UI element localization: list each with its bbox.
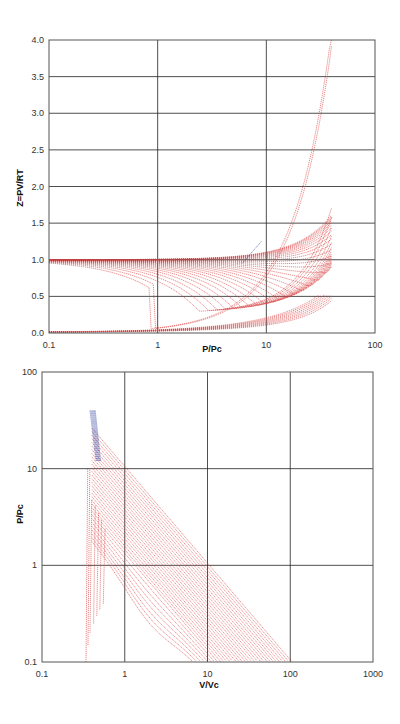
liquid-branch-line (49, 301, 332, 333)
isotherm-line (49, 236, 332, 309)
y-axis-title: P/Pc (15, 504, 25, 524)
liquid-line (90, 500, 92, 633)
y-tick: 3.5 (31, 72, 44, 82)
isotherm-line (49, 220, 332, 259)
liquid-line (103, 529, 105, 604)
pressure-volume-chart: 0.1 1 10 100 0.1 1 10 100 1000 V/Vc P/Pc (0, 362, 400, 724)
isotherm-line (92, 490, 239, 661)
isotherm-line (92, 530, 204, 661)
isotherm-line (92, 475, 251, 661)
liquid-branch-line (49, 295, 325, 332)
liquid-line (94, 505, 96, 623)
y-tick: 4.0 (31, 35, 44, 45)
liquid-line (100, 519, 102, 609)
y-tick: 0.0 (31, 328, 44, 338)
x-tick: 1000 (363, 669, 383, 679)
isotherm-line (49, 227, 332, 310)
isotherm-line (49, 228, 332, 260)
saturation-line (93, 411, 99, 462)
y-tick: 0.1 (24, 657, 37, 667)
isotherm-line (92, 453, 269, 660)
isotherm-line (92, 439, 282, 661)
x-tick: 1 (122, 669, 127, 679)
x-tick: 100 (283, 669, 298, 679)
y-tick: 0.5 (31, 291, 44, 301)
x-axis-title: V/Vc (199, 680, 219, 690)
liquid-line (97, 512, 99, 616)
compressibility-chart-svg: 0.0 0.5 1.0 1.5 2.0 2.5 3.0 3.5 4.0 0.1 … (0, 0, 400, 362)
isotherm-line (49, 254, 332, 306)
x-axis-title: P/Pc (202, 344, 222, 354)
x-tick: 0.1 (43, 340, 56, 350)
liquid-branch-line (49, 295, 327, 332)
isotherm-line (92, 493, 236, 661)
y-tick: 2.0 (31, 182, 44, 192)
isotherm-line (92, 511, 221, 662)
isotherm-line (92, 519, 214, 661)
compressibility-chart: 0.0 0.5 1.0 1.5 2.0 2.5 3.0 3.5 4.0 0.1 … (0, 0, 400, 362)
isotherm-line (92, 504, 226, 661)
x-tick: 10 (261, 340, 271, 350)
isotherm-line (92, 515, 217, 662)
x-tick: 100 (367, 340, 382, 350)
isotherm-line (92, 482, 245, 660)
isotherm-line (49, 239, 332, 260)
isotherm-line (92, 522, 211, 661)
isotherm-line (92, 508, 224, 662)
liquid-branch-line (49, 296, 332, 332)
isotherm-curves (86, 411, 292, 663)
y-axis-ticks: 0.0 0.5 1.0 1.5 2.0 2.5 3.0 3.5 4.0 (31, 35, 44, 338)
isotherm-line (92, 500, 230, 661)
isotherm-line (49, 219, 332, 260)
isotherm-curves (49, 40, 332, 332)
isotherm-line (92, 464, 261, 661)
y-tick: 100 (22, 367, 37, 377)
y-tick: 1.5 (31, 218, 44, 228)
chart-grid (49, 40, 375, 333)
isotherm-line (92, 486, 242, 661)
x-tick: 1 (155, 340, 160, 350)
isotherm-line (49, 231, 332, 260)
liquid-branch-line (49, 298, 332, 332)
isotherm-line (49, 46, 332, 328)
liquid-line (88, 469, 90, 645)
x-tick: 0.1 (36, 669, 49, 679)
isotherm-line (92, 428, 292, 661)
x-axis-ticks: 0.1 1 10 100 1000 (36, 669, 383, 679)
y-tick: 3.0 (31, 108, 44, 118)
y-tick: 1.0 (31, 255, 44, 265)
isotherm-line (92, 432, 288, 661)
isotherm-line (92, 479, 248, 662)
pressure-volume-chart-svg: 0.1 1 10 100 0.1 1 10 100 1000 V/Vc P/Pc (0, 362, 400, 724)
isotherm-line (49, 259, 332, 300)
isotherm-line (92, 446, 276, 661)
y-tick: 1 (32, 560, 37, 570)
x-tick: 10 (202, 669, 212, 679)
isotherm-line (49, 260, 332, 290)
isotherm-line (92, 461, 263, 661)
y-tick: 2.5 (31, 145, 44, 155)
isotherm-line (49, 244, 332, 261)
y-tick: 10 (27, 464, 37, 474)
y-axis-title: Z=PV/RT (15, 169, 25, 207)
liquid-branch-line (49, 296, 329, 333)
liquid-branch-line (49, 295, 319, 332)
